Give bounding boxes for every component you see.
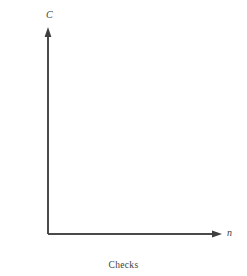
cost-vs-checks-figure: C n Checks Cost [0, 0, 247, 276]
x-axis-arrowhead [212, 231, 222, 238]
x-axis-variable-label: n [227, 228, 232, 238]
axes-drawing [0, 0, 247, 276]
x-axis-group [48, 231, 222, 238]
y-axis-group [45, 27, 52, 234]
x-axis-title: Checks [0, 261, 247, 271]
y-axis-arrowhead [45, 27, 52, 37]
y-axis-variable-label: C [46, 10, 53, 20]
